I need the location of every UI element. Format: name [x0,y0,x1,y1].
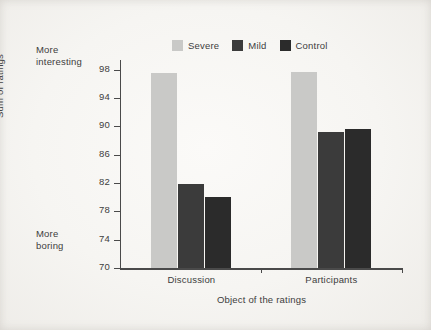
legend-label-severe: Severe [188,40,219,51]
annotation-more-interesting: More interesting [36,44,82,68]
annotation-more-boring-line2: boring [36,240,64,252]
plot-area [120,62,400,268]
x-axis-category-label: Participants [281,274,381,285]
bar-control-participants [345,129,371,268]
y-axis-tick-mark [114,268,120,269]
y-axis-tick-label: 82 [99,176,110,187]
y-axis-tick-label: 94 [99,91,110,102]
annotation-more-interesting-line2: interesting [36,56,82,68]
bar-severe-discussion [151,73,177,268]
x-axis-tick-middle [261,268,262,273]
y-axis-tick-label: 70 [99,261,110,272]
x-axis-title: Object of the ratings [120,294,403,305]
y-axis-tick-label: 90 [99,119,110,130]
y-axis-tick-label: 86 [99,148,110,159]
legend-label-control: Control [296,40,328,51]
y-axis-tick-label: 74 [99,233,110,244]
x-axis-tick-end [402,268,403,273]
legend-label-mild: Mild [248,40,266,51]
legend-item-control: Control [280,40,328,51]
bar-control-discussion [205,197,231,268]
bar-mild-participants [318,132,344,268]
annotation-more-boring-line1: More [36,228,64,240]
annotation-more-boring: More boring [36,228,64,252]
bar-chart-figure: More interesting More boring Severe Mild… [0,0,431,330]
y-axis-tick-label: 78 [99,204,110,215]
bar-severe-participants [291,72,317,268]
legend-item-severe: Severe [172,40,219,51]
y-axis-title: Sum of ratings [0,54,5,118]
y-axis-tick-label: 98 [99,63,110,74]
legend-swatch-severe [172,40,183,51]
y-axis-tick: 70 [114,268,120,269]
chart-legend: Severe Mild Control [172,40,328,51]
x-axis-category-label: Discussion [141,274,241,285]
bar-mild-discussion [178,184,204,268]
legend-swatch-control [280,40,291,51]
annotation-more-interesting-line1: More [36,44,82,56]
legend-item-mild: Mild [232,40,266,51]
legend-swatch-mild [232,40,243,51]
